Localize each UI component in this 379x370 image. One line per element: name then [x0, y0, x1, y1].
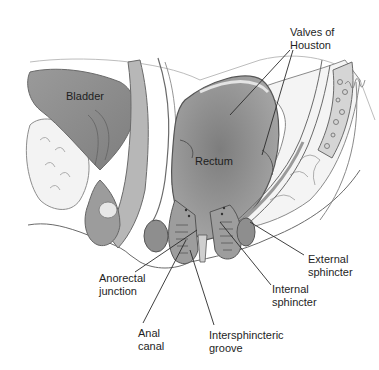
label-internal-sphincter: Internal sphincter: [272, 283, 317, 308]
label-intersphincteric-groove: Intersphincteric groove: [209, 329, 284, 354]
label-external-sphincter: External sphincter: [308, 253, 353, 278]
label-anorectal-junction: Anorectal junction: [99, 272, 145, 297]
label-anal-canal: Anal canal: [138, 327, 164, 352]
label-rectum: Rectum: [195, 155, 233, 168]
anatomical-illustration: [0, 0, 379, 370]
label-valves-of-houston: Valves of Houston: [290, 26, 334, 51]
label-bladder: Bladder: [66, 90, 104, 103]
